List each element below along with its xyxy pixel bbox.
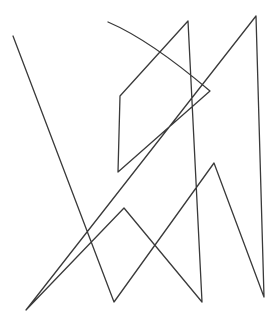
line-sketch (0, 0, 276, 324)
background (0, 0, 276, 324)
